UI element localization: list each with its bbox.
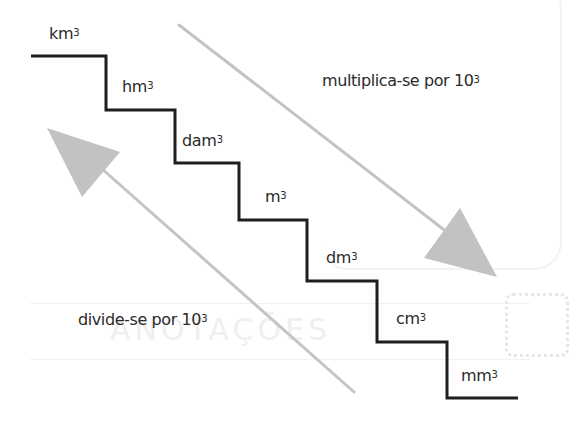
step-label-dm3: dm3 — [326, 249, 357, 267]
arrow-down-right-icon — [179, 25, 497, 277]
step-label-km3: km3 — [49, 25, 79, 43]
divide-note: divide-se por 103 — [78, 311, 207, 329]
step-label-m3: m3 — [265, 188, 286, 206]
diagram-graphics — [0, 0, 588, 427]
staircase-line — [31, 56, 518, 398]
multiply-note: multiplica-se por 103 — [322, 72, 480, 90]
step-label-hm3: hm3 — [122, 78, 153, 96]
step-label-dam3: dam3 — [182, 132, 223, 150]
unit-conversion-diagram: ANOTAÇÕES km3 hm3 dam3 m3 dm3 cm3 mm3 mu… — [0, 0, 588, 427]
step-label-mm3: mm3 — [461, 367, 498, 385]
step-label-cm3: cm3 — [396, 310, 426, 328]
